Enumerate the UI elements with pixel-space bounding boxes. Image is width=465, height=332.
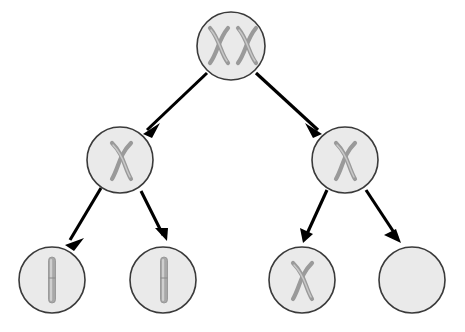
chromosome-rod [49, 257, 56, 303]
diagram-canvas [0, 0, 465, 332]
arrow-left-to-gamete-1 [65, 188, 101, 251]
gamete-cell-4[interactable] [379, 247, 445, 313]
cell-membrane [379, 247, 445, 313]
arrow-right-to-gamete-4 [366, 190, 401, 243]
gamete-cell-2[interactable] [130, 247, 196, 313]
cell-division-diagram [0, 0, 465, 332]
daughter-cell-left[interactable] [87, 127, 153, 193]
gamete-cell-1[interactable] [19, 247, 85, 313]
arrow-parent-to-right [256, 73, 322, 138]
arrow-right-to-gamete-3 [300, 190, 327, 243]
cell-membrane [197, 12, 265, 80]
gamete-cell-3[interactable] [269, 247, 335, 313]
chromosome-rod [161, 257, 168, 303]
parent-cell[interactable] [197, 12, 265, 80]
daughter-cell-right[interactable] [312, 127, 378, 193]
arrow-left-to-gamete-2 [141, 191, 168, 241]
arrow-parent-to-left [143, 73, 207, 138]
